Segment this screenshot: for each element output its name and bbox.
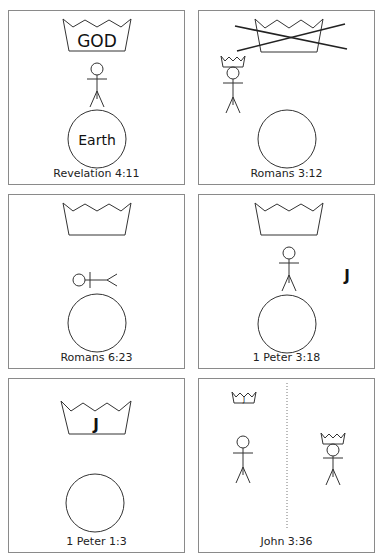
panel-2-drawing [199,11,376,186]
earth-label: Earth [78,132,116,148]
earth-circle [258,295,316,353]
earth-circle [66,474,124,532]
panel-4-drawing: J [199,195,376,370]
crown-icon [255,203,323,235]
verse-caption: Romans 6:23 [9,351,184,364]
stick-figure-icon [279,247,299,291]
panel-3-drawing [9,195,186,370]
panel-1-drawing: GOD Earth [9,11,186,186]
panel-6-drawing: J [199,379,376,554]
stick-figure-icon [87,63,107,107]
crossed-out-crown-icon [235,19,347,52]
fallen-stick-figure-icon [73,272,117,288]
panel-1-peter-1-3: J 1 Peter 1:3 [8,378,185,553]
crowned-stick-figure-icon [321,433,345,485]
crown-label: GOD [77,31,117,51]
panel-romans-6-23: Romans 6:23 [8,194,185,369]
stick-figure-icon [233,436,253,483]
crowned-stick-figure-icon [221,56,245,113]
panel-john-3-36: J John 3:36 [198,378,375,553]
panel-romans-3-12: Romans 3:12 [198,10,375,185]
panel-revelation-4-11: GOD Earth Revelation 4:11 [8,10,185,185]
crown-label: J [92,416,99,434]
verse-caption: Revelation 4:11 [9,167,184,180]
jesus-letter: J [343,267,350,285]
crown-icon [63,203,131,235]
panel-1-peter-3-18: J 1 Peter 3:18 [198,194,375,369]
small-crown-label: J [242,396,245,404]
earth-circle [68,294,126,352]
earth-circle [258,110,316,168]
panel-5-drawing: J [9,379,186,554]
verse-caption: John 3:36 [199,535,374,548]
verse-caption: 1 Peter 3:18 [199,351,374,364]
verse-caption: 1 Peter 1:3 [9,535,184,548]
verse-caption: Romans 3:12 [199,167,374,180]
